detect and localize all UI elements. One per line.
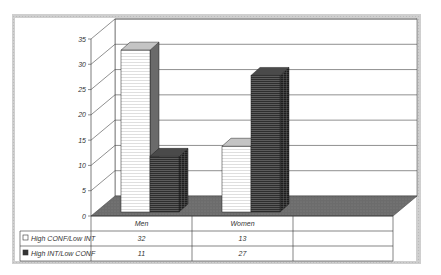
y-tick-label: 35 xyxy=(78,36,86,43)
legend-label: High INT/Low CONF xyxy=(31,250,96,258)
bar xyxy=(251,67,289,212)
bar-front xyxy=(150,156,179,212)
legend-key xyxy=(23,235,28,240)
y-tick-label: 25 xyxy=(77,86,86,93)
table-cell: 13 xyxy=(239,235,247,242)
bar-front xyxy=(251,75,280,212)
table-cell: 32 xyxy=(138,235,146,242)
table-cell: 27 xyxy=(238,250,248,257)
table-cell: 11 xyxy=(138,250,145,257)
category-label: Women xyxy=(230,220,254,227)
y-tick-label: 20 xyxy=(77,111,86,118)
bar xyxy=(150,148,188,212)
y-tick-label: 0 xyxy=(82,213,86,220)
category-label: Men xyxy=(135,220,149,227)
y-tick-label: 10 xyxy=(78,162,86,169)
side-wall xyxy=(91,19,115,216)
chart: 05101520253035 MenWomenHigh CONF/Low INT… xyxy=(0,0,441,275)
y-tick-label: 30 xyxy=(78,61,86,68)
bar-side xyxy=(179,148,188,212)
bar-front xyxy=(222,146,251,212)
legend-key xyxy=(23,250,28,255)
legend-label: High CONF/Low INT xyxy=(31,235,96,243)
y-tick-label: 15 xyxy=(78,137,86,144)
bar-front xyxy=(121,50,150,212)
y-tick-label: 5 xyxy=(82,187,86,194)
bar-side xyxy=(280,67,289,212)
